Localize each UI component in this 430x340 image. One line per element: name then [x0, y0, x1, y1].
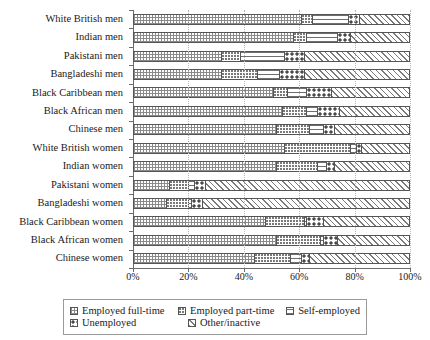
bar-segment: [134, 236, 277, 245]
legend-label-other-inactive: Other/inactive: [200, 317, 260, 328]
gridline: [355, 10, 357, 268]
stacked-bar: [133, 14, 410, 25]
bar-segment: [340, 107, 409, 116]
category-label: Indian men: [0, 28, 128, 46]
bar-segment: [134, 144, 285, 153]
legend-swatch-icon-employed-full-time: [70, 307, 78, 315]
bar-row: [133, 139, 410, 157]
stacked-bar: [133, 235, 410, 246]
bar-segment: [324, 236, 338, 245]
legend-swatch-icon-unemployed: [70, 319, 78, 327]
legend-swatch-icon-self-employed: [286, 307, 294, 315]
bar-row: [133, 249, 410, 267]
bar-row: [133, 102, 410, 120]
gridline: [188, 10, 190, 268]
bar-row: [133, 231, 410, 249]
bar-segment: [277, 162, 318, 171]
stacked-bar: [133, 51, 410, 62]
stacked-bar: [133, 253, 410, 264]
bar-segment: [222, 52, 241, 61]
bar-segment: [324, 217, 409, 226]
y-axis-tick-mark: [129, 268, 133, 269]
category-label: Black Caribbean women: [0, 213, 128, 231]
bar-segment: [305, 52, 410, 61]
category-label: Chinese men: [0, 121, 128, 139]
bar-segment: [241, 52, 285, 61]
bar-segment: [134, 181, 170, 190]
bar-segment: [274, 88, 288, 97]
bar-segment: [285, 52, 304, 61]
bar-row: [133, 28, 410, 46]
bar-segment: [277, 125, 310, 134]
y-axis-tick-mark: [129, 47, 133, 48]
legend-item-employed-part-time[interactable]: Employed part-time: [178, 305, 286, 316]
category-label: Indian women: [0, 157, 128, 175]
bar-segment: [338, 236, 410, 245]
bar-segment: [307, 33, 337, 42]
category-label: Bangladeshi men: [0, 65, 128, 83]
bar-segment: [134, 33, 294, 42]
bar-segment: [327, 162, 335, 171]
stacked-bar: [133, 124, 410, 135]
category-label: Chinese women: [0, 249, 128, 267]
legend-label-unemployed: Unemployed: [82, 317, 136, 328]
category-label: Black African women: [0, 231, 128, 249]
bar-segment: [302, 254, 310, 263]
bar-row: [133, 213, 410, 231]
plot-area-wrapper: White British menIndian menPakistani men…: [0, 0, 430, 285]
bar-row: [133, 194, 410, 212]
bar-segment: [338, 33, 352, 42]
y-axis-tick-mark: [129, 65, 133, 66]
x-axis-tick-label: 60%: [279, 271, 319, 282]
legend-row-2: Unemployed Other/inactive: [70, 317, 360, 328]
stacked-bar: [133, 87, 410, 98]
bar-segment: [134, 70, 222, 79]
gridline: [299, 10, 301, 268]
bar-segment: [307, 88, 332, 97]
y-axis-tick-mark: [129, 157, 133, 158]
bar-segment: [192, 199, 203, 208]
bar-segment: [335, 125, 409, 134]
bar-segment: [170, 181, 189, 190]
legend-item-self-employed[interactable]: Self-employed: [286, 305, 360, 316]
bar-segment: [318, 107, 340, 116]
bar-segment: [258, 70, 280, 79]
category-label: Black Caribbean men: [0, 84, 128, 102]
y-axis-tick-mark: [129, 231, 133, 232]
bar-segment: [167, 199, 189, 208]
y-axis-tick-mark: [129, 176, 133, 177]
x-axis-tick-label: 40%: [224, 271, 264, 282]
bar-segment: [302, 15, 313, 24]
bar-segment: [134, 162, 277, 171]
legend-item-employed-full-time[interactable]: Employed full-time: [70, 305, 178, 316]
bar-row: [133, 121, 410, 139]
category-label: Bangladeshi women: [0, 194, 128, 212]
y-axis-tick-mark: [129, 84, 133, 85]
stacked-bar-chart: White British menIndian menPakistani men…: [0, 0, 430, 340]
category-label: White British men: [0, 10, 128, 28]
bar-segment: [360, 15, 410, 24]
legend-row-1: Employed full-time Employed part-time Se…: [70, 305, 360, 316]
bar-row: [133, 47, 410, 65]
category-label: Pakistani men: [0, 47, 128, 65]
bar-segment: [134, 125, 277, 134]
legend-label-self-employed: Self-employed: [298, 305, 360, 316]
bar-segment: [335, 162, 409, 171]
bar-segment: [362, 144, 409, 153]
y-axis-tick-mark: [129, 28, 133, 29]
x-axis-tick-label: 20%: [168, 271, 208, 282]
bar-segment: [222, 70, 258, 79]
bar-segment: [307, 107, 318, 116]
bar-row: [133, 157, 410, 175]
legend-item-unemployed[interactable]: Unemployed: [70, 317, 188, 328]
x-axis-line: [133, 268, 411, 269]
y-axis-tick-mark: [129, 250, 133, 251]
stacked-bar: [133, 106, 410, 117]
category-label: Black African men: [0, 102, 128, 120]
bar-segment: [310, 125, 324, 134]
bar-segment: [255, 254, 291, 263]
x-axis-tick-label: 80%: [335, 271, 375, 282]
legend-item-other-inactive[interactable]: Other/inactive: [188, 317, 260, 328]
bar-segment: [195, 181, 206, 190]
bar-segment: [134, 199, 167, 208]
